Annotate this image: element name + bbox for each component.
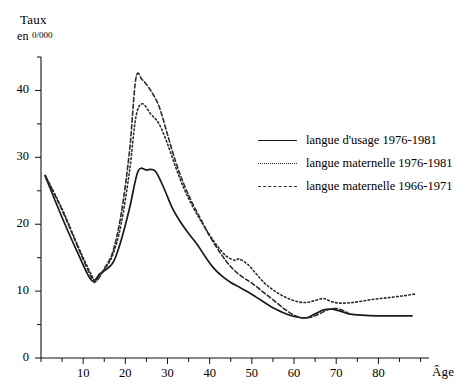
legend-line-sample-solid-icon — [258, 136, 297, 146]
y-tick-label: 30 — [5, 149, 29, 164]
legend-line-sample-dashed-icon — [258, 182, 297, 192]
x-tick-label: 30 — [153, 366, 183, 381]
y-tick-label: 10 — [5, 283, 29, 298]
legend-label: langue maternelle 1976-1981 — [306, 156, 452, 171]
legend-line-sample-dotted-icon — [258, 159, 297, 169]
x-tick-label: 60 — [279, 366, 309, 381]
x-tick-label: 80 — [363, 366, 393, 381]
x-tick-label: 50 — [237, 366, 267, 381]
y-tick-label: 20 — [5, 216, 29, 231]
chart-root: Taux en 0/000 Âge 010203040 102030405060… — [0, 0, 465, 392]
y-tick-label: 0 — [5, 350, 29, 365]
x-tick-label: 10 — [68, 366, 98, 381]
x-tick-label: 20 — [110, 366, 140, 381]
legend-label: langue maternelle 1966-1971 — [306, 179, 452, 194]
x-tick-label: 70 — [321, 366, 351, 381]
x-tick-label: 40 — [195, 366, 225, 381]
legend-item: langue maternelle 1966-1971 — [258, 175, 463, 198]
y-tick-label: 40 — [5, 82, 29, 97]
legend-label: langue d'usage 1976-1981 — [306, 133, 437, 148]
legend-item: langue d'usage 1976-1981 — [258, 129, 463, 152]
chart-legend: langue d'usage 1976-1981 langue maternel… — [258, 129, 463, 198]
legend-item: langue maternelle 1976-1981 — [258, 152, 463, 175]
